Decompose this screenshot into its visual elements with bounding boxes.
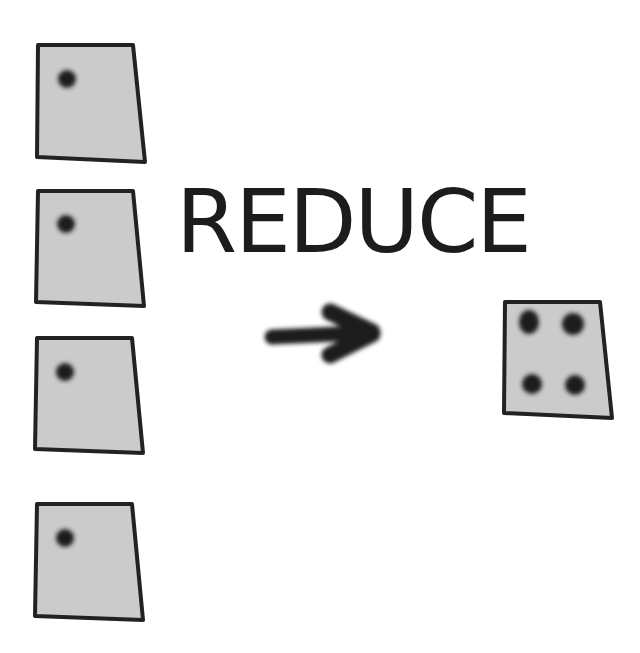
right-arrow-icon [272, 312, 372, 355]
dot [56, 363, 74, 381]
dot [56, 529, 74, 547]
input-card-2 [36, 191, 144, 306]
dot [519, 310, 539, 334]
dot [58, 70, 76, 88]
reduce-diagram [0, 0, 640, 653]
reduce-label: REDUCE [176, 178, 530, 266]
input-card-4 [35, 504, 143, 620]
input-card-3 [35, 338, 143, 453]
dot [562, 313, 584, 335]
dot [522, 374, 542, 394]
input-card-1 [37, 45, 145, 162]
dot [57, 215, 75, 233]
dot [565, 375, 585, 395]
output-card [504, 302, 612, 418]
